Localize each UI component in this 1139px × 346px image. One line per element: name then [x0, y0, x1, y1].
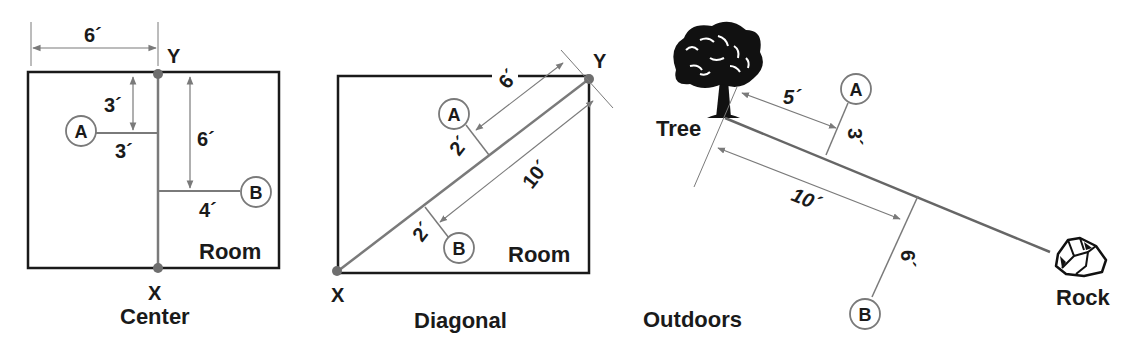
dim-a-out: 3´	[115, 140, 133, 162]
rock-icon	[1056, 238, 1106, 276]
point-y-dot	[584, 74, 594, 84]
panel-caption: Outdoors	[643, 307, 742, 332]
dim-b-out: 4´	[199, 199, 217, 221]
diagonal-panel: 6´ A 2´ 10´ B 2´ Room Y X Diagonal	[331, 50, 613, 333]
dim-a-out: 2´	[445, 132, 473, 160]
marker-a-label: A	[448, 105, 461, 125]
dim-a-out: 3´	[844, 128, 866, 146]
marker-b-label: B	[859, 305, 872, 325]
dim-a-along: 6´	[494, 65, 522, 93]
point-x-dot	[153, 263, 163, 273]
marker-b-label: B	[250, 183, 263, 203]
panel-caption: Diagonal	[414, 308, 507, 333]
point-y-label: Y	[167, 45, 181, 67]
point-x-label: X	[331, 284, 345, 306]
point-y-label: Y	[593, 50, 607, 72]
point-x-dot	[332, 266, 342, 276]
dim-b-out: 6´	[897, 250, 919, 268]
point-y-dot	[153, 69, 163, 79]
marker-b-label: B	[453, 239, 466, 259]
center-panel: 6´ Y 3´ A 3´ 6´ B 4´ Room X Center	[28, 22, 279, 329]
dim-top-width: 6´	[84, 24, 102, 46]
outdoors-panel: Tree 5´ A 3´ 10´ B 6´ Rock Outdoors	[643, 22, 1111, 332]
point-x-label: X	[148, 282, 162, 304]
panel-caption: Center	[120, 304, 190, 329]
marker-a-label: A	[850, 80, 863, 100]
room-label: Room	[508, 242, 570, 267]
room-label: Room	[199, 239, 261, 264]
dim-a-down: 3´	[104, 94, 122, 116]
dim-b-along: 10´	[518, 156, 553, 192]
diagram-canvas: 6´ Y 3´ A 3´ 6´ B 4´ Room X Center	[0, 0, 1139, 346]
tree-label: Tree	[656, 116, 701, 141]
rock-label: Rock	[1056, 285, 1111, 310]
dimension-arrow	[476, 63, 563, 130]
dim-a-along: 5´	[783, 86, 802, 108]
baseline	[725, 118, 1050, 252]
dim-b-down: 6´	[197, 128, 215, 150]
tree-icon	[673, 22, 763, 118]
dim-b-out: 2´	[408, 218, 436, 246]
marker-a-label: A	[75, 122, 88, 142]
